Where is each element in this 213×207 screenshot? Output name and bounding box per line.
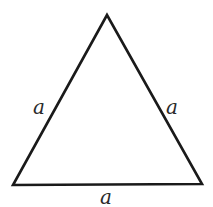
diagram-canvas: a a a	[0, 0, 213, 207]
bottom-side-label: a	[100, 185, 112, 207]
left-side-label: a	[33, 95, 45, 119]
right-side-label: a	[166, 95, 178, 119]
triangle-figure: a a a	[0, 0, 213, 207]
